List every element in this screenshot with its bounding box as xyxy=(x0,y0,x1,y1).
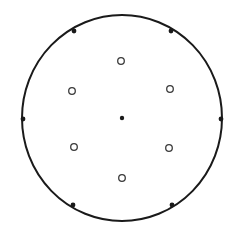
circle-point-diagram xyxy=(0,0,243,225)
rim-point-right xyxy=(219,117,224,122)
inner-point-bottom xyxy=(119,175,126,182)
rim-point-upper-right xyxy=(169,29,174,34)
inner-point-upper-right xyxy=(167,86,174,93)
rim-point-left xyxy=(21,117,26,122)
rim-point-upper-left xyxy=(72,29,77,34)
inner-point-top xyxy=(118,58,125,65)
inner-point-lower-left xyxy=(71,144,78,151)
inner-point-upper-left xyxy=(69,88,76,95)
diagram-background xyxy=(0,0,243,225)
rim-point-lower-right xyxy=(170,203,175,208)
rim-point-lower-left xyxy=(71,203,76,208)
center-filled-point xyxy=(120,116,124,120)
inner-point-lower-right xyxy=(166,145,173,152)
